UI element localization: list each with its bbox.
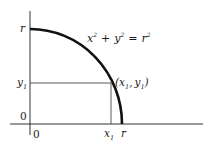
point-label: (x1,y1) — [115, 76, 149, 91]
y-axis-label-y1: y1 — [16, 76, 27, 91]
x-axis-label-r: r — [121, 127, 127, 139]
quarter-circle-diagram: x2+y2=r2 (x1,y1) r y1 0 0 x1 r — [0, 0, 215, 148]
y-axis-label-zero: 0 — [20, 110, 27, 122]
equation-label: x2+y2=r2 — [87, 31, 151, 45]
y-axis-label-r: r — [20, 22, 26, 34]
x-axis-label-x1: x1 — [104, 127, 114, 142]
x-axis-label-zero: 0 — [33, 128, 40, 140]
